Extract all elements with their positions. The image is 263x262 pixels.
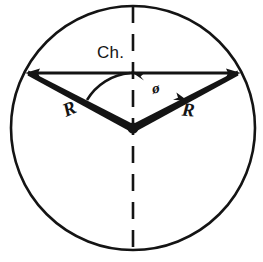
geometry-diagram: Ch. R R ø xyxy=(0,0,263,262)
angle-arc-arrow xyxy=(87,71,188,101)
radius-left-line xyxy=(28,71,133,133)
angle-label: ø xyxy=(151,80,161,98)
center-point-dot xyxy=(127,122,138,133)
radius-right-label: R xyxy=(181,98,196,121)
angle-arc-path xyxy=(87,73,130,100)
diagram-canvas xyxy=(0,0,263,262)
chord-label: Ch. xyxy=(97,43,124,63)
